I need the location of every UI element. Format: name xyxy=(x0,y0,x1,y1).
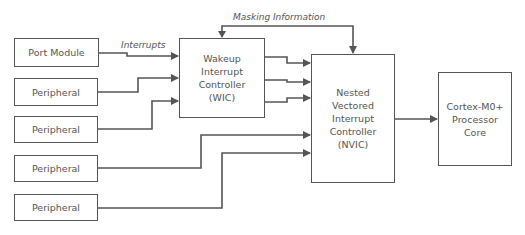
interrupts-label: Interrupts xyxy=(121,40,165,50)
peripheral-box: Peripheral xyxy=(14,116,98,143)
peripheral-label: Peripheral xyxy=(32,86,80,99)
peripheral-box: Peripheral xyxy=(14,155,98,182)
peripheral-label: Peripheral xyxy=(32,162,80,175)
wic-box: Wakeup Interrupt Controller (WIC) xyxy=(179,38,265,118)
core-label-line: Cortex-M0+ xyxy=(446,100,503,113)
peripheral-label: Peripheral xyxy=(32,123,80,136)
wic-label-line: (WIC) xyxy=(199,91,246,104)
peripheral-label: Peripheral xyxy=(32,201,80,214)
core-label-line: Processor xyxy=(446,113,503,126)
wic-label-line: Wakeup xyxy=(199,52,246,65)
port-module-label: Port Module xyxy=(28,46,84,59)
wic-label-line: Interrupt xyxy=(199,65,246,78)
peripheral-box: Peripheral xyxy=(14,78,98,106)
nvic-label-line: Interrupt xyxy=(330,112,377,125)
masking-information-label: Masking Information xyxy=(233,12,325,22)
nvic-label-line: Nested xyxy=(330,86,377,99)
wic-label-line: Controller xyxy=(199,78,246,91)
processor-core-box: Cortex-M0+ Processor Core xyxy=(438,72,512,166)
nvic-label-line: Controller xyxy=(330,125,377,138)
nvic-label-line: (NVIC) xyxy=(330,138,377,151)
nvic-label-line: Vectored xyxy=(330,99,377,112)
core-label-line: Core xyxy=(446,126,503,139)
peripheral-box: Peripheral xyxy=(14,194,98,221)
nvic-box: Nested Vectored Interrupt Controller (NV… xyxy=(311,54,395,183)
port-module-box: Port Module xyxy=(14,38,99,67)
